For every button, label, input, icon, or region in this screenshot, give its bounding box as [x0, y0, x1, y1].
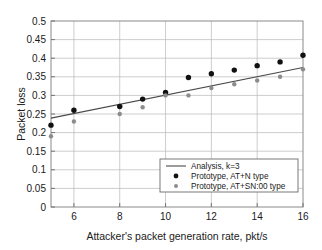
data-point-at-sn00 — [209, 86, 213, 90]
data-point-at-sn00 — [72, 119, 76, 123]
chart-figure: 00.050.10.150.20.250.30.350.40.450.5 681… — [0, 0, 322, 250]
data-point-at-n — [48, 122, 53, 127]
x-tick-label: 8 — [117, 211, 123, 222]
y-tick-label: 0 — [40, 202, 46, 213]
x-tick-label: 12 — [206, 211, 218, 222]
data-point-at-n — [117, 104, 122, 109]
y-tick-label: 0.4 — [32, 53, 46, 64]
data-point-at-sn00 — [186, 93, 190, 97]
y-tick-label: 0.2 — [32, 127, 46, 138]
data-point-at-sn00 — [140, 105, 144, 109]
data-point-at-n — [209, 71, 214, 76]
legend-label: Prototype, AT+N type — [191, 172, 269, 181]
y-tick-label: 0.25 — [27, 109, 47, 120]
data-point-at-n — [254, 63, 259, 68]
data-point-at-sn00 — [301, 67, 305, 71]
data-point-at-n — [277, 59, 282, 64]
chart-legend: Analysis, k=3Prototype, AT+N typePrototy… — [160, 159, 298, 192]
y-tick-label: 0.35 — [27, 71, 47, 82]
x-tick-label: 16 — [297, 211, 309, 222]
data-point-at-sn00 — [232, 82, 236, 86]
data-point-at-n — [186, 75, 191, 80]
legend-marker-dot-gray — [174, 184, 178, 188]
y-tick-label: 0.1 — [32, 164, 46, 175]
legend-label: Prototype, AT+SN:00 type — [191, 182, 286, 191]
legend-marker-dot-dark — [174, 174, 179, 179]
data-point-at-n — [71, 108, 76, 113]
y-axis-tick-labels: 00.050.10.150.20.250.30.350.40.450.5 — [27, 16, 47, 213]
data-point-at-sn00 — [49, 134, 53, 138]
x-tick-label: 14 — [252, 211, 264, 222]
legend-label: Analysis, k=3 — [191, 162, 240, 171]
data-point-at-sn00 — [163, 93, 167, 97]
y-tick-label: 0.3 — [32, 90, 46, 101]
data-point-at-sn00 — [118, 112, 122, 116]
data-point-at-n — [232, 67, 237, 72]
data-point-at-sn00 — [278, 75, 282, 79]
y-tick-label: 0.05 — [27, 183, 47, 194]
data-point-at-n — [300, 53, 305, 58]
x-tick-label: 6 — [71, 211, 77, 222]
x-tick-label: 10 — [160, 211, 172, 222]
y-tick-label: 0.5 — [32, 16, 46, 27]
y-axis-title: Packet loss — [15, 87, 27, 141]
y-tick-label: 0.15 — [27, 146, 47, 157]
data-point-at-sn00 — [255, 78, 259, 82]
data-point-at-n — [140, 96, 145, 101]
packet-loss-scatter-chart: 00.050.10.150.20.250.30.350.40.450.5 681… — [0, 0, 322, 250]
x-axis-title: Attacker's packet generation rate, pkt/s — [86, 230, 267, 242]
y-tick-label: 0.45 — [27, 34, 47, 45]
